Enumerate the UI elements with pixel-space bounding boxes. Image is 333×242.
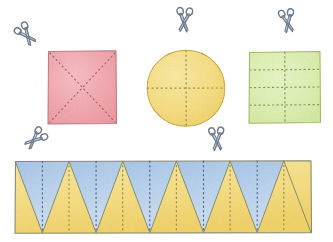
illustration-canvas [0,0,333,242]
green-square [249,52,321,124]
yellow-circle [147,50,225,126]
paper-shapes-illustration [0,0,333,242]
triangle-strip [15,161,312,233]
pink-square [48,51,117,124]
